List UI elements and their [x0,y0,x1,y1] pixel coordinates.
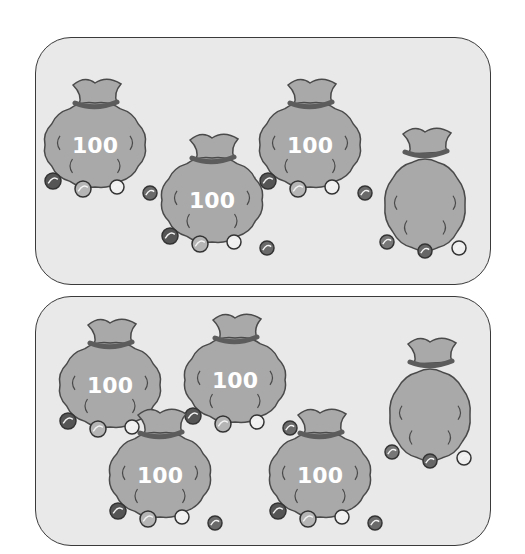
marble [270,503,286,519]
small-money-bag [380,128,466,258]
marble [140,511,156,527]
bag-body [390,369,470,461]
marble [227,235,241,249]
marble [175,510,189,524]
marble [185,408,201,424]
bag-value-label: 100 [87,373,133,398]
money-bag: 100 [184,314,297,435]
marble [45,173,61,189]
marble [90,421,106,437]
marble [423,454,437,468]
marble [208,516,222,530]
marble [125,420,139,434]
marble [300,511,316,527]
bag-value-label: 100 [189,188,235,213]
bag-value-label: 100 [287,133,333,158]
money-bag: 100 [44,79,157,200]
marble [75,181,91,197]
marble [110,503,126,519]
marble [260,241,274,255]
marble [358,186,372,200]
marble [380,235,394,249]
marble [283,421,297,435]
marble [215,416,231,432]
bag-value-label: 100 [297,463,343,488]
marble [418,244,432,258]
marble [385,445,399,459]
bag-value-label: 100 [212,368,258,393]
marble [143,186,157,200]
marble [162,228,178,244]
marble [325,180,339,194]
marble [60,413,76,429]
small-money-bag [385,338,471,468]
marble [457,451,471,465]
marble [290,181,306,197]
marble [452,241,466,255]
marble [192,236,208,252]
money-bag: 100 [259,79,372,200]
money-bag: 100 [161,134,274,255]
bag-body [385,159,465,251]
bags-scene: 100100100100100100100 [0,0,525,554]
marble [368,516,382,530]
marble [260,173,276,189]
bag-value-label: 100 [137,463,183,488]
marble [250,415,264,429]
bag-value-label: 100 [72,133,118,158]
marble [110,180,124,194]
marble [335,510,349,524]
